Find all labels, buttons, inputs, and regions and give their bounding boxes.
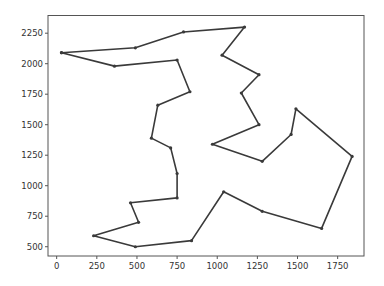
x-tick-label: 750 <box>169 261 185 271</box>
data-point <box>261 160 264 163</box>
data-point <box>220 54 223 57</box>
y-tick-label: 1750 <box>21 89 43 99</box>
data-point <box>156 104 159 107</box>
data-point <box>257 73 260 76</box>
y-tick-label: 1500 <box>21 120 43 130</box>
y-tick-label: 1000 <box>21 181 43 191</box>
data-point <box>320 227 323 230</box>
data-point <box>175 58 178 61</box>
data-point <box>169 146 172 149</box>
data-point <box>175 196 178 199</box>
data-point <box>113 65 116 68</box>
data-point <box>175 172 178 175</box>
data-point <box>134 245 137 248</box>
plot-area <box>60 25 354 248</box>
data-point <box>243 25 246 28</box>
data-point <box>290 133 293 136</box>
data-point <box>188 90 191 93</box>
series-line-tour <box>62 27 353 247</box>
x-axis: 02505007501000125015001750 <box>54 256 349 271</box>
x-tick-label: 1250 <box>247 261 269 271</box>
x-tick-label: 1750 <box>327 261 349 271</box>
data-point <box>137 221 140 224</box>
x-tick-label: 1000 <box>206 261 228 271</box>
data-point <box>134 46 137 49</box>
data-point <box>222 190 225 193</box>
data-point <box>211 143 214 146</box>
y-axis: 500750100012501500175020002250 <box>21 28 48 252</box>
data-point <box>182 30 185 33</box>
data-point <box>150 137 153 140</box>
y-tick-label: 500 <box>27 242 43 252</box>
y-tick-label: 750 <box>27 211 43 221</box>
x-tick-label: 1500 <box>287 261 309 271</box>
x-tick-label: 0 <box>54 261 59 271</box>
data-point <box>257 123 260 126</box>
line-chart: 02505007501000125015001750 5007501000125… <box>0 0 384 286</box>
x-tick-label: 250 <box>89 261 105 271</box>
y-tick-label: 1250 <box>21 150 43 160</box>
data-point <box>92 234 95 237</box>
y-tick-label: 2250 <box>21 28 43 38</box>
data-point <box>351 155 354 158</box>
y-tick-label: 2000 <box>21 59 43 69</box>
data-point <box>240 91 243 94</box>
data-point <box>60 51 63 54</box>
data-point <box>190 239 193 242</box>
data-point <box>129 201 132 204</box>
data-point <box>294 107 297 110</box>
data-point <box>261 210 264 213</box>
x-tick-label: 500 <box>129 261 145 271</box>
